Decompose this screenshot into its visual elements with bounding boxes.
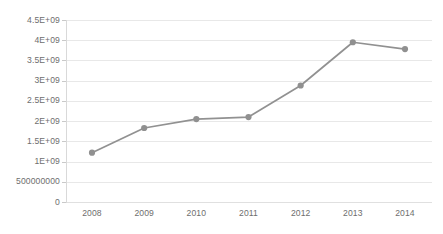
series-markers [89, 39, 408, 156]
y-axis-tick [62, 202, 66, 203]
data-point-marker [350, 39, 356, 45]
y-axis-tick [62, 81, 66, 82]
y-axis-tick [62, 101, 66, 102]
plot-area [0, 0, 443, 234]
data-point-marker [193, 116, 199, 122]
y-axis-tick [62, 162, 66, 163]
line-chart: 05000000001E+091.5E+092E+092.5E+093E+093… [0, 0, 443, 234]
y-axis-tick [62, 60, 66, 61]
data-point-marker [298, 82, 304, 88]
series-line [92, 42, 405, 152]
y-axis-tick [62, 141, 66, 142]
data-point-marker [402, 46, 408, 52]
data-point-marker [141, 125, 147, 131]
y-axis-tick [62, 40, 66, 41]
y-axis-tick [62, 121, 66, 122]
y-axis-tick [62, 20, 66, 21]
y-axis-tick [62, 182, 66, 183]
data-point-marker [89, 150, 95, 156]
data-point-marker [245, 114, 251, 120]
